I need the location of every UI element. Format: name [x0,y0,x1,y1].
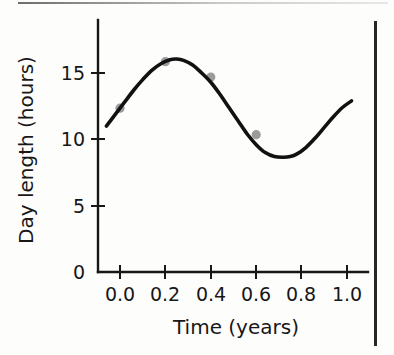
x-tick-label-2: 0.4 [196,283,226,305]
y-tick-label-0: 0 [73,261,85,283]
y-tick-label-15: 15 [61,62,85,84]
y-tick-label-5: 5 [73,195,85,217]
x-axis: 0.0 0.2 0.4 0.6 0.8 1.0 Time (years) [98,265,368,339]
x-tick-label-1: 0.2 [150,283,180,305]
x-axis-title: Time (years) [172,315,299,339]
day-length-chart: 15 10 5 0 Day length (hours) 0.0 0.2 0.4… [0,0,394,355]
y-axis: 15 10 5 0 Day length (hours) [14,20,105,283]
x-tick-label-3: 0.6 [241,283,271,305]
x-tick-label-4: 0.8 [286,283,316,305]
fitted-curve [106,59,351,157]
data-point-marker [252,130,261,139]
x-tick-label-5: 1.0 [332,283,362,305]
y-tick-label-10: 10 [61,128,85,150]
figure-panel: 15 10 5 0 Day length (hours) 0.0 0.2 0.4… [0,0,394,355]
y-axis-title: Day length (hours) [14,56,38,244]
data-point-markers [115,57,260,139]
x-tick-label-0: 0.0 [105,283,135,305]
